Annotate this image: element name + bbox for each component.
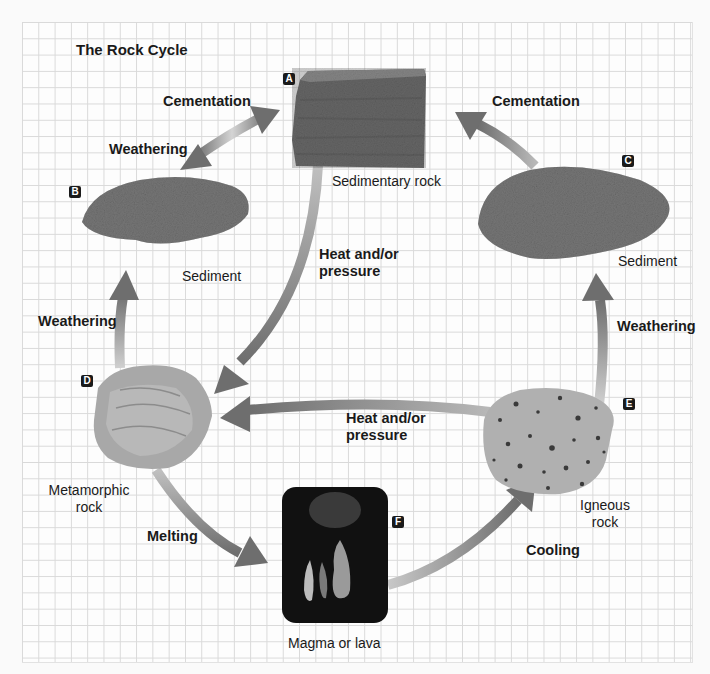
label-sediment-b: Sediment xyxy=(182,268,241,285)
process-melting: Melting xyxy=(147,528,198,545)
label-igneous-rock: Igneous rock xyxy=(575,497,635,531)
process-cementation-right: Cementation xyxy=(492,93,580,110)
process-heat-pressure-lower-line1: Heat and/or xyxy=(346,410,426,427)
label-metamorphic-rock: Metamorphic rock xyxy=(44,482,134,516)
badge-b: B xyxy=(69,186,81,198)
process-weathering-left: Weathering xyxy=(38,313,117,330)
igneous-rock-image xyxy=(483,388,614,494)
process-heat-pressure-lower-line2: pressure xyxy=(346,427,426,444)
label-magma-or-lava: Magma or lava xyxy=(288,635,381,652)
badge-a: A xyxy=(283,73,295,85)
process-heat-pressure-center-line2: pressure xyxy=(319,263,399,280)
sedimentary-rock-image xyxy=(292,68,426,168)
label-metamorphic-line1: Metamorphic xyxy=(44,482,134,499)
process-weathering-right: Weathering xyxy=(617,318,696,335)
process-heat-pressure-center-line1: Heat and/or xyxy=(319,246,399,263)
badge-d: D xyxy=(81,375,93,387)
arrow-cementation-weathering-left xyxy=(180,106,280,170)
label-sedimentary-rock: Sedimentary rock xyxy=(332,173,441,190)
arrow-melting xyxy=(156,470,268,567)
badge-f: F xyxy=(392,516,404,528)
badge-c: C xyxy=(622,155,634,167)
process-cementation-left: Cementation xyxy=(163,93,251,110)
label-metamorphic-line2: rock xyxy=(44,499,134,516)
arrow-cementation-right xyxy=(455,112,535,166)
badge-e: E xyxy=(623,398,635,410)
process-heat-pressure-lower: Heat and/or pressure xyxy=(346,410,426,444)
magma-lava-image xyxy=(282,487,388,623)
arrow-cooling xyxy=(388,477,536,585)
metamorphic-rock-image xyxy=(94,365,212,469)
label-sediment-c: Sediment xyxy=(618,253,677,270)
arrow-weathering-right xyxy=(582,273,614,405)
process-weathering-top-left: Weathering xyxy=(109,141,188,158)
process-cooling: Cooling xyxy=(526,542,580,559)
process-heat-pressure-center: Heat and/or pressure xyxy=(319,246,399,280)
label-igneous-line1: Igneous xyxy=(575,497,635,514)
sediment-pile-b-image xyxy=(82,177,249,243)
diagram-title: The Rock Cycle xyxy=(76,41,188,58)
rock-cycle-artwork xyxy=(0,0,710,674)
sediment-pile-c-image xyxy=(478,167,669,259)
label-igneous-line2: rock xyxy=(575,514,635,531)
